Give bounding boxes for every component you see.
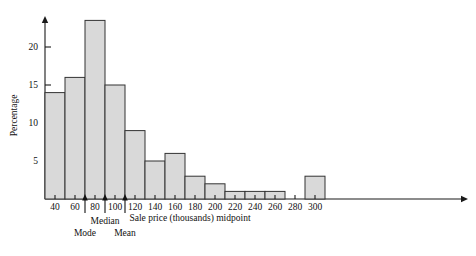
y-axis-tick-label: 15: [29, 80, 39, 90]
y-axis-tick-label: 10: [29, 118, 39, 128]
histogram-bar: [125, 131, 145, 199]
histogram-chart: 5101520406080100120140160180200220240260…: [0, 0, 476, 256]
histogram-bar: [85, 20, 105, 199]
y-axis-tick-label: 20: [29, 42, 39, 52]
x-axis-tick-label: 100: [108, 202, 123, 212]
chart-canvas: 5101520406080100120140160180200220240260…: [0, 0, 476, 256]
histogram-bar: [165, 153, 185, 199]
x-axis-tick-label: 120: [128, 202, 143, 212]
histogram-bar: [145, 161, 165, 199]
x-axis-tick-label: 280: [288, 202, 303, 212]
x-axis-tick-label: 200: [208, 202, 223, 212]
x-axis-tick-label: 140: [148, 202, 163, 212]
x-axis-tick-label: 80: [90, 202, 100, 212]
histogram-bar: [45, 93, 65, 199]
x-axis-arrowhead: [461, 196, 468, 202]
x-axis-tick-label: 260: [268, 202, 283, 212]
x-axis-tick-label: 180: [188, 202, 203, 212]
x-axis-title: Sale price (thousands) midpoint: [129, 213, 250, 224]
x-axis-tick-label: 60: [70, 202, 80, 212]
y-axis-tick-label: 5: [33, 156, 38, 166]
x-axis-tick-label: 220: [228, 202, 243, 212]
histogram-bar: [65, 77, 85, 199]
x-axis-tick-label: 240: [248, 202, 263, 212]
annotation-label: Mode: [74, 228, 96, 238]
annotation-label: Median: [90, 216, 119, 226]
x-axis-tick-label: 160: [168, 202, 183, 212]
x-axis-tick-label: 40: [50, 202, 60, 212]
histogram-bar: [105, 85, 125, 199]
annotation-label: Mean: [114, 228, 136, 238]
y-axis-title: Percentage: [9, 95, 19, 137]
x-axis-tick-label: 300: [308, 202, 323, 212]
y-axis-arrowhead: [42, 16, 48, 23]
